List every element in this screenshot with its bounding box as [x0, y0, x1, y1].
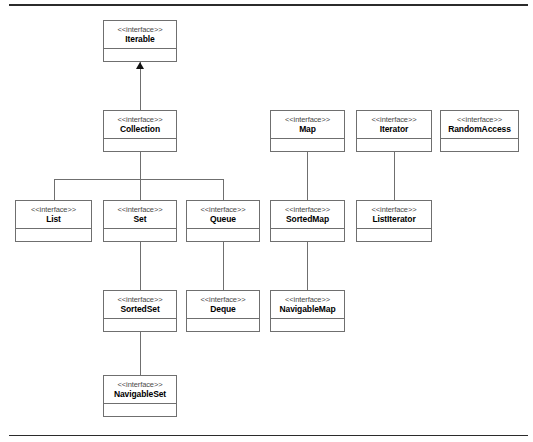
uml-members-compartment	[104, 49, 176, 61]
connector-sortedmap-to-map	[307, 152, 308, 200]
uml-members-compartment	[271, 319, 344, 331]
connector-bus-drop-list	[54, 179, 55, 200]
class-name-label: Iterable	[125, 35, 154, 44]
connector-navigablemap-to-sortedmap	[307, 242, 308, 290]
connector-bus-drop-queue	[223, 179, 224, 200]
connector-bus-horizontal	[54, 179, 224, 180]
stereotype-label: <<interface>>	[31, 206, 76, 214]
class-name-label: SortedSet	[120, 305, 159, 314]
stereotype-label: <<interface>>	[457, 116, 502, 124]
uml-header-set: <<interface>> Set	[104, 201, 176, 229]
uml-header-list: <<interface>> List	[16, 201, 91, 229]
uml-header-sortedset: <<interface>> SortedSet	[104, 291, 176, 319]
class-name-label: Iterator	[380, 125, 409, 134]
class-name-label: NavigableSet	[114, 390, 166, 399]
uml-class-randomaccess[interactable]: <<interface>> RandomAccess	[440, 110, 519, 152]
stereotype-label: <<interface>>	[285, 206, 330, 214]
uml-class-deque[interactable]: <<interface>> Deque	[186, 290, 260, 332]
class-name-label: Map	[299, 125, 316, 134]
connector-bus-stem-collection	[140, 152, 141, 179]
stereotype-label: <<interface>>	[372, 116, 417, 124]
stereotype-label: <<interface>>	[285, 116, 330, 124]
connector-sortedset-to-set	[140, 242, 141, 290]
uml-members-compartment	[104, 229, 176, 241]
uml-header-collection: <<interface>> Collection	[104, 111, 176, 139]
uml-members-compartment	[104, 139, 176, 151]
uml-header-navigablemap: <<interface>> NavigableMap	[271, 291, 344, 319]
connector-bus-drop-set	[140, 179, 141, 200]
class-name-label: List	[46, 215, 61, 224]
uml-members-compartment	[357, 229, 431, 241]
uml-members-compartment	[104, 404, 176, 416]
stereotype-label: <<interface>>	[201, 206, 246, 214]
uml-header-iterator: <<interface>> Iterator	[357, 111, 431, 139]
class-name-label: Collection	[120, 125, 160, 134]
class-name-label: RandomAccess	[448, 125, 511, 134]
uml-members-compartment	[271, 139, 344, 151]
uml-members-compartment	[187, 319, 259, 331]
connector-deque-to-queue	[223, 242, 224, 290]
uml-class-list[interactable]: <<interface>> List	[15, 200, 92, 242]
stereotype-label: <<interface>>	[118, 206, 163, 214]
stereotype-label: <<interface>>	[285, 296, 330, 304]
uml-diagram-canvas: <<interface>> Iterable <<interface>> Col…	[0, 0, 533, 442]
page-rule-top	[9, 4, 528, 6]
arrowhead-collection-to-iterable	[136, 62, 144, 69]
uml-class-map[interactable]: <<interface>> Map	[270, 110, 345, 152]
uml-header-sortedmap: <<interface>> SortedMap	[271, 201, 344, 229]
uml-members-compartment	[357, 139, 431, 151]
uml-header-deque: <<interface>> Deque	[187, 291, 259, 319]
page-rule-bottom	[9, 435, 528, 436]
class-name-label: SortedMap	[286, 215, 329, 224]
stereotype-label: <<interface>>	[118, 381, 163, 389]
uml-class-navigableset[interactable]: <<interface>> NavigableSet	[103, 375, 177, 417]
connector-navigableset-to-sortedset	[140, 332, 141, 375]
uml-members-compartment	[271, 229, 344, 241]
stereotype-label: <<interface>>	[201, 296, 246, 304]
uml-header-iterable: <<interface>> Iterable	[104, 21, 176, 49]
uml-class-sortedmap[interactable]: <<interface>> SortedMap	[270, 200, 345, 242]
class-name-label: ListIterator	[372, 215, 415, 224]
uml-class-collection[interactable]: <<interface>> Collection	[103, 110, 177, 152]
uml-members-compartment	[16, 229, 91, 241]
stereotype-label: <<interface>>	[118, 26, 163, 34]
uml-class-iterable[interactable]: <<interface>> Iterable	[103, 20, 177, 62]
uml-header-queue: <<interface>> Queue	[187, 201, 259, 229]
stereotype-label: <<interface>>	[372, 206, 417, 214]
class-name-label: Deque	[210, 305, 235, 314]
uml-members-compartment	[441, 139, 518, 151]
uml-header-map: <<interface>> Map	[271, 111, 344, 139]
uml-class-iterator[interactable]: <<interface>> Iterator	[356, 110, 432, 152]
connector-collection-to-iterable	[140, 62, 141, 110]
stereotype-label: <<interface>>	[118, 296, 163, 304]
uml-header-randomaccess: <<interface>> RandomAccess	[441, 111, 518, 139]
stereotype-label: <<interface>>	[118, 116, 163, 124]
class-name-label: Queue	[210, 215, 236, 224]
uml-class-listiterator[interactable]: <<interface>> ListIterator	[356, 200, 432, 242]
uml-class-set[interactable]: <<interface>> Set	[103, 200, 177, 242]
uml-members-compartment	[187, 229, 259, 241]
class-name-label: Set	[134, 215, 147, 224]
uml-header-listiterator: <<interface>> ListIterator	[357, 201, 431, 229]
uml-class-sortedset[interactable]: <<interface>> SortedSet	[103, 290, 177, 332]
connector-listiterator-to-iterator	[394, 152, 395, 200]
uml-members-compartment	[104, 319, 176, 331]
class-name-label: NavigableMap	[280, 305, 336, 314]
uml-header-navigableset: <<interface>> NavigableSet	[104, 376, 176, 404]
uml-class-navigablemap[interactable]: <<interface>> NavigableMap	[270, 290, 345, 332]
uml-class-queue[interactable]: <<interface>> Queue	[186, 200, 260, 242]
